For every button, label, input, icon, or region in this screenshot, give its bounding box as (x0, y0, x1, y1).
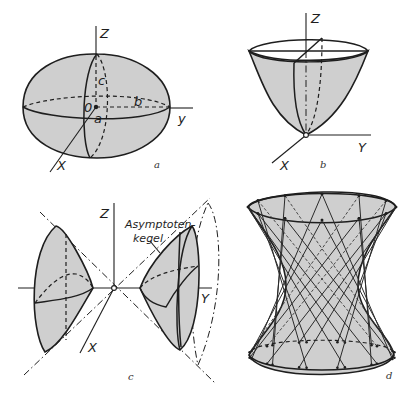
y-axis-label-c: Y (201, 291, 210, 306)
semi-axis-c-label: c (98, 73, 105, 88)
panel-a-ellipsoid: Z y X 0 a b c a (23, 26, 193, 173)
asymptote-annotation-line2: kegel (133, 232, 163, 245)
origin-label-a: 0 (84, 100, 92, 115)
ruling-node (321, 219, 324, 222)
z-axis-label-b: Z (310, 11, 321, 26)
z-axis-label-c: Z (99, 206, 110, 221)
origin-point-c (112, 286, 117, 291)
asymptote-annotation-line1: Asymptoten- (124, 218, 196, 231)
ruling-node (305, 366, 308, 369)
ruling-node (344, 366, 347, 369)
panel-c-hyperboloid-two-sheets: Z Y X Asymptoten- kegel c (18, 198, 219, 383)
x-axis-label-a: X (56, 158, 67, 173)
ruling-node (321, 193, 324, 196)
ruling-node (376, 362, 379, 365)
z-axis-label-a: Z (99, 26, 110, 41)
ruling-node (393, 351, 396, 354)
origin-point-a (94, 105, 98, 109)
ruling-node (376, 345, 379, 348)
ruling-node (266, 345, 269, 348)
ruling-node (391, 358, 394, 361)
ruling-node (358, 194, 361, 197)
ruling-node (336, 366, 339, 369)
panel-label-b: b (320, 159, 326, 170)
y-axis-label-a: y (177, 111, 186, 126)
ruling-node (298, 366, 301, 369)
ruling-node (266, 362, 269, 365)
quadric-surfaces-figure: Z y X 0 a b c a Z Y X b (0, 0, 419, 394)
panel-b-paraboloid: Z Y X b (249, 11, 371, 173)
left-sheet-surface (34, 226, 93, 352)
ruling-node (395, 206, 398, 209)
panel-d-hyperboloid-one-sheet: d (247, 192, 398, 381)
ruling-node (284, 217, 287, 220)
x-axis-label-c: X (87, 340, 98, 355)
ruling-node (336, 341, 339, 344)
ruling-node (257, 212, 260, 215)
ruling-node (284, 194, 287, 197)
ruling-node (358, 217, 361, 220)
ruling-node (385, 199, 388, 202)
ruling-node (248, 356, 251, 359)
vertex-point-b (304, 133, 309, 138)
panel-label-c: c (128, 371, 134, 382)
panel-label-a: a (154, 159, 160, 170)
ruling-node (370, 363, 373, 366)
ruling-node (305, 341, 308, 344)
ruling-node (247, 206, 250, 209)
semi-axis-b-label: b (134, 94, 142, 109)
ruling-node (271, 344, 274, 347)
panel-label-d: d (386, 370, 392, 381)
ruling-node (385, 212, 388, 215)
ruling-node (257, 199, 260, 202)
semi-axis-a-label: a (94, 111, 102, 126)
ruling-node (250, 350, 253, 353)
ruling-node (271, 363, 274, 366)
x-axis-label-b: X (279, 158, 290, 173)
paraboloid-surface (249, 51, 368, 135)
y-axis-label-b: Y (358, 140, 367, 155)
